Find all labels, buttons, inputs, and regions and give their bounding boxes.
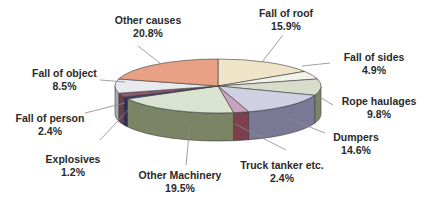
side-fall-of-person	[119, 93, 124, 125]
label-fall-of-sides: Fall of sides 4.9%	[329, 51, 419, 77]
leader-line	[262, 35, 283, 62]
leader-line	[302, 63, 330, 66]
label-other-causes: Other causes 20.8%	[98, 14, 198, 40]
side-explosives	[124, 97, 127, 127]
label-rope-haulages: Rope haulages 9.8%	[332, 95, 425, 121]
leader-line	[138, 46, 160, 63]
label-other-machinery: Other Machinery 19.5%	[130, 169, 230, 195]
label-fall-of-roof: Fall of roof 15.9%	[236, 7, 336, 33]
label-fall-of-person: Fall of person 2.4%	[10, 112, 90, 138]
label-truck-tanker: Truck tanker etc. 2.4%	[232, 159, 332, 185]
label-dumpers: Dumpers 14.6%	[326, 131, 386, 157]
side-truck-tanker-etc	[233, 112, 248, 141]
label-explosives: Explosives 1.2%	[33, 153, 113, 179]
label-fall-of-object: Fall of object 8.5%	[22, 67, 107, 93]
